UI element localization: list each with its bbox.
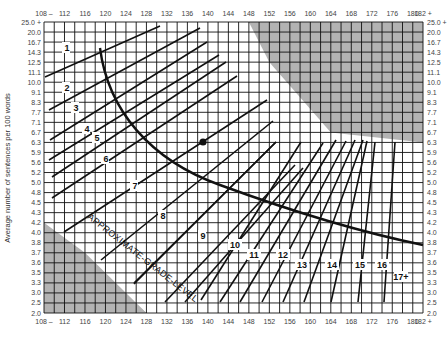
y-tick-right: 10.0 xyxy=(427,79,441,86)
y-tick-right: 9.1 xyxy=(427,89,437,96)
x-axis-bottom: 108 –11211612012412813213614014414815215… xyxy=(35,318,432,325)
grade-line xyxy=(52,62,226,177)
y-tick-left: 4.3 xyxy=(31,209,41,216)
y-tick-left: 4.8 xyxy=(31,189,41,196)
grade-label: 7 xyxy=(132,181,137,191)
y-tick-right: 2.5 xyxy=(427,299,437,306)
y-axis-title: Average number of sentences per 100 word… xyxy=(3,93,12,243)
x-axis-top: 108 –11211612012412813213614014414815215… xyxy=(35,10,432,17)
x-tick-bottom: 120 xyxy=(100,318,112,325)
grade-label: 12 xyxy=(278,250,288,260)
x-tick-bottom: 160 xyxy=(304,318,316,325)
y-tick-left: 7.7 xyxy=(31,109,41,116)
x-tick-top: 120 xyxy=(100,10,112,17)
y-tick-right: 3.8 xyxy=(427,239,437,246)
x-tick-top: 168 xyxy=(345,10,357,17)
y-tick-left: 2.5 xyxy=(31,299,41,306)
y-tick-left: 5.9 xyxy=(31,149,41,156)
y-tick-left: 4.5 xyxy=(31,199,41,206)
grade-label: 8 xyxy=(160,211,165,221)
grade-label: 17+ xyxy=(393,272,408,282)
x-tick-bottom: 108 – xyxy=(35,318,53,325)
y-tick-left: 3.6 xyxy=(31,259,41,266)
y-tick-right: 7.7 xyxy=(427,109,437,116)
y-tick-right: 5.9 xyxy=(427,149,437,156)
x-tick-bottom: 148 xyxy=(243,318,255,325)
x-tick-top: 116 xyxy=(79,10,90,17)
y-tick-right: 2.0 xyxy=(427,310,437,317)
x-tick-bottom: 182 + xyxy=(414,318,432,325)
y-tick-right: 25.0 + xyxy=(427,19,447,26)
y-tick-right: 20.0 xyxy=(427,29,441,36)
x-tick-bottom: 144 xyxy=(223,318,235,325)
y-tick-left: 25.0 + xyxy=(21,19,41,26)
y-tick-right: 6.3 xyxy=(427,139,437,146)
x-tick-top: 124 xyxy=(120,10,132,17)
y-tick-left: 3.3 xyxy=(31,279,41,286)
y-tick-left: 10.0 xyxy=(27,79,41,86)
x-tick-bottom: 156 xyxy=(284,318,296,325)
y-tick-right: 4.0 xyxy=(427,229,437,236)
y-tick-right: 3.7 xyxy=(427,249,437,256)
x-tick-top: 172 xyxy=(366,10,378,17)
grade-label: 9 xyxy=(200,231,205,241)
y-tick-left: 20.0 xyxy=(27,29,41,36)
grade-label: 4 xyxy=(84,124,89,134)
x-tick-bottom: 140 xyxy=(202,318,214,325)
grade-label: 15 xyxy=(355,260,365,270)
x-tick-top: 152 xyxy=(264,10,276,17)
x-tick-top: 140 xyxy=(202,10,214,17)
x-tick-top: 160 xyxy=(304,10,316,17)
y-tick-right: 7.1 xyxy=(427,119,437,126)
y-tick-right: 3.5 xyxy=(427,269,437,276)
y-tick-left: 5.0 xyxy=(31,179,41,186)
y-tick-right: 8.3 xyxy=(427,99,437,106)
y-tick-right: 4.3 xyxy=(427,209,437,216)
x-tick-top: 108 – xyxy=(35,10,53,17)
x-tick-bottom: 136 xyxy=(182,318,194,325)
y-tick-right: 14.3 xyxy=(427,49,441,56)
grade-label: 13 xyxy=(297,260,307,270)
grade-line xyxy=(358,142,375,302)
grade-label: 3 xyxy=(73,103,78,113)
x-tick-top: 132 xyxy=(161,10,173,17)
grade-label: 5 xyxy=(94,133,99,143)
y-tick-right: 11.1 xyxy=(427,69,440,76)
grade-label: 1 xyxy=(64,43,69,53)
fry-readability-graph: 1234567891011121314151617+APPROXIMATE-GR… xyxy=(0,0,447,340)
y-tick-left: 5.6 xyxy=(31,159,41,166)
y-tick-left: 12.5 xyxy=(27,59,41,66)
x-tick-top: 136 xyxy=(182,10,194,17)
y-tick-right: 12.5 xyxy=(427,59,441,66)
x-tick-bottom: 176 xyxy=(386,318,398,325)
grade-line xyxy=(283,140,355,302)
x-tick-bottom: 152 xyxy=(264,318,276,325)
x-tick-top: 164 xyxy=(325,10,337,17)
x-tick-bottom: 128 xyxy=(141,318,153,325)
y-tick-right: 16.7 xyxy=(427,39,441,46)
x-tick-bottom: 132 xyxy=(161,318,173,325)
y-tick-left: 8.3 xyxy=(31,99,41,106)
x-tick-top: 128 xyxy=(141,10,153,17)
y-tick-right: 6.7 xyxy=(427,129,437,136)
x-tick-top: 156 xyxy=(284,10,296,17)
x-tick-bottom: 172 xyxy=(366,318,378,325)
grade-label: 11 xyxy=(249,250,259,260)
y-tick-right: 3.6 xyxy=(427,259,437,266)
plotted-point xyxy=(199,138,206,145)
y-tick-left: 3.0 xyxy=(31,289,41,296)
grade-label: 6 xyxy=(103,154,108,164)
y-tick-left: 3.8 xyxy=(31,239,41,246)
y-tick-left: 6.3 xyxy=(31,139,41,146)
grade-label: 14 xyxy=(327,260,337,270)
x-tick-bottom: 116 xyxy=(79,318,90,325)
y-tick-left: 4.0 xyxy=(31,229,41,236)
y-tick-left: 6.7 xyxy=(31,129,41,136)
grade-label: 16 xyxy=(377,260,387,270)
y-tick-left: 7.1 xyxy=(31,119,41,126)
x-tick-top: 144 xyxy=(223,10,235,17)
y-axis-left: 25.0 +20.016.714.312.511.110.09.18.37.77… xyxy=(21,19,41,317)
y-tick-right: 3.0 xyxy=(427,289,437,296)
grade-label: 2 xyxy=(64,83,69,93)
x-tick-bottom: 164 xyxy=(325,318,337,325)
